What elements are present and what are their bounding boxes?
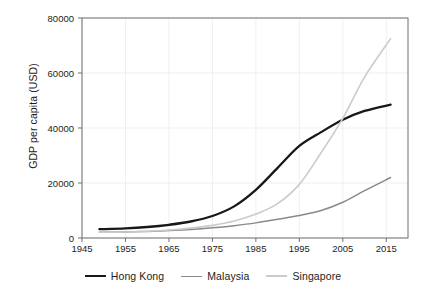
x-tick-label: 1955 bbox=[103, 243, 147, 254]
x-tick-label: 1965 bbox=[147, 243, 191, 254]
legend-label: Malaysia bbox=[207, 270, 249, 282]
x-tick-label: 2015 bbox=[364, 243, 408, 254]
x-tick-label: 1975 bbox=[190, 243, 234, 254]
x-axis-tick-labels: 19451955196519751985199520052015 bbox=[0, 243, 426, 259]
legend-line-swatch bbox=[266, 275, 287, 277]
legend-item-hong-kong[interactable]: Hong Kong bbox=[85, 270, 164, 282]
x-tick-label: 1945 bbox=[60, 243, 104, 254]
legend-line-swatch bbox=[181, 276, 202, 277]
chart-figure: GDP per capita (USD) 0200004000060000800… bbox=[0, 0, 426, 298]
gridlines bbox=[82, 18, 408, 238]
legend-label: Singapore bbox=[292, 270, 341, 282]
legend-item-singapore[interactable]: Singapore bbox=[266, 270, 341, 282]
x-tick-label: 2005 bbox=[321, 243, 365, 254]
series-line-hong-kong bbox=[99, 105, 390, 230]
chart-legend: Hong KongMalaysiaSingapore bbox=[0, 270, 426, 282]
x-tick-label: 1995 bbox=[277, 243, 321, 254]
legend-item-malaysia[interactable]: Malaysia bbox=[181, 270, 249, 282]
x-tick-label: 1985 bbox=[234, 243, 278, 254]
series-line-malaysia bbox=[99, 178, 390, 233]
legend-label: Hong Kong bbox=[111, 270, 164, 282]
legend-line-swatch bbox=[85, 275, 106, 277]
data-series bbox=[99, 39, 390, 233]
series-line-singapore bbox=[99, 39, 390, 233]
